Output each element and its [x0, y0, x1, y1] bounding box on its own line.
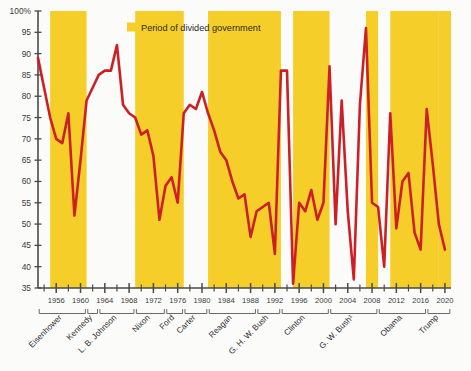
president-bracket: [39, 309, 85, 314]
y-tick-label: 90: [22, 49, 32, 59]
president-label: G. W. Bush¹: [318, 313, 356, 351]
president-bracket: [88, 309, 98, 314]
president-label: Trump: [417, 313, 440, 336]
president-bracket: [331, 309, 377, 314]
y-tick-label: 75: [22, 113, 32, 123]
president-label: Clinton: [282, 313, 307, 338]
x-tick-label: 1976: [169, 296, 186, 305]
y-tick-label: 60: [22, 176, 32, 186]
y-tick-label: 100%: [10, 6, 32, 16]
x-tick-label: 1984: [218, 296, 235, 305]
y-tick-label: 55: [22, 198, 32, 208]
president-bracket: [209, 309, 255, 314]
president-label: Reagan: [207, 313, 234, 340]
x-tick-label: 1956: [48, 296, 65, 305]
x-tick-label: 2016: [412, 296, 429, 305]
x-tick-label: 1964: [96, 296, 113, 305]
president-label: Eisenhower: [27, 313, 64, 350]
president-bracket: [258, 309, 280, 314]
x-tick-label: 1972: [145, 296, 162, 305]
x-tick-label: 2020: [436, 296, 453, 305]
y-tick-label: 95: [22, 27, 32, 37]
divided-government-band: [135, 11, 184, 288]
chart-svg: 100%959085807570656055504540351956196019…: [0, 0, 471, 371]
x-tick-label: 2012: [388, 296, 405, 305]
x-tick-label: 1992: [266, 296, 283, 305]
x-tick-label: 1988: [242, 296, 259, 305]
x-tick-label: 2008: [364, 296, 381, 305]
president-bracket: [379, 309, 425, 314]
x-tick-label: 2004: [339, 296, 356, 305]
president-label: Carter: [175, 313, 198, 336]
divided-government-chart: 100%959085807570656055504540351956196019…: [0, 0, 471, 371]
president-label: Nixon: [131, 313, 152, 334]
legend-label: Period of divided government: [141, 23, 261, 33]
x-tick-label: 1996: [291, 296, 308, 305]
y-tick-label: 80: [22, 91, 32, 101]
x-tick-label: 1980: [194, 296, 211, 305]
y-tick-label: 35: [22, 283, 32, 293]
president-bracket: [100, 309, 134, 314]
president-bracket: [136, 309, 164, 314]
y-tick-label: 85: [22, 70, 32, 80]
x-tick-label: 1968: [121, 296, 138, 305]
president-bracket: [282, 309, 328, 314]
y-tick-label: 50: [22, 219, 32, 229]
y-tick-label: 45: [22, 240, 32, 250]
legend-swatch: [127, 23, 136, 32]
y-tick-label: 65: [22, 155, 32, 165]
x-tick-label: 2000: [315, 296, 332, 305]
president-bracket: [185, 309, 207, 314]
y-tick-label: 40: [22, 262, 32, 272]
y-tick-label: 70: [22, 134, 32, 144]
president-label: Obama: [378, 313, 404, 339]
divided-government-band: [293, 11, 329, 288]
president-label: G. H. W. Bush: [227, 313, 270, 356]
president-label: Ford: [158, 313, 177, 332]
president-bracket: [428, 309, 450, 314]
x-tick-label: 1960: [72, 296, 89, 305]
